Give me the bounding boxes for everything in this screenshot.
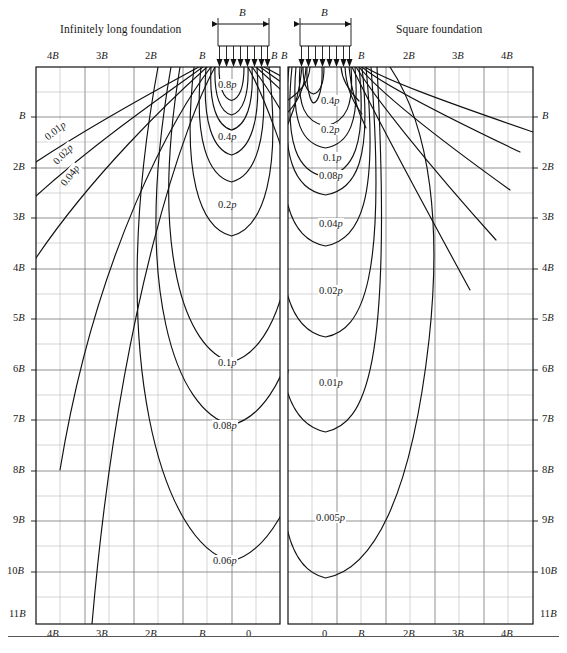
top-tick-left-3B: 3B: [96, 50, 108, 61]
top-tick-left-B: B: [199, 50, 205, 61]
left-load-diagram: [217, 18, 271, 67]
bottom-tick-right-3B: 3B: [452, 628, 464, 639]
depth-tick-right-4B: 4B: [542, 262, 554, 273]
depth-tick-left-4B: 4B: [13, 262, 25, 273]
right-panel-grid: [288, 67, 533, 624]
right-dimension-label-B: B: [321, 6, 328, 18]
depth-tick-left-7B: 7B: [13, 413, 25, 424]
bottom-tick-left-0: 0: [246, 628, 251, 639]
left-contour-label-0.06p: 0.06p: [212, 555, 238, 566]
right-contour-label-0.04p: 0.04p: [318, 218, 344, 229]
right-isobar-contours: [279, 67, 533, 578]
caption-divider: [8, 636, 559, 637]
right-contour-label-0.08p: 0.08p: [318, 170, 344, 181]
depth-tick-right-3B: 3B: [542, 211, 554, 222]
figure-caption: [8, 641, 560, 653]
bottom-tick-left-4B: 4B: [47, 628, 59, 639]
right-contour-label-0.2p: 0.2p: [320, 124, 340, 135]
depth-tick-left-8B: 8B: [13, 464, 25, 475]
bottom-tick-right-2B: 2B: [403, 628, 415, 639]
depth-tick-left-3B: 3B: [13, 211, 25, 222]
bottom-tick-right-4B: 4B: [501, 628, 513, 639]
top-tick-right-3B: 3B: [452, 50, 464, 61]
right-contour-label-0.4p: 0.4p: [320, 95, 340, 106]
bottom-tick-left-B: B: [199, 628, 205, 639]
right-contour-label-0.02p: 0.02p: [318, 285, 344, 296]
depth-tick-right-6B: 6B: [542, 363, 554, 374]
left-dimension-label-B: B: [239, 6, 246, 18]
top-tick-right-edge-B: B: [281, 50, 287, 61]
depth-tick-right-11B: 11B: [540, 608, 557, 619]
bottom-tick-right-B: B: [358, 628, 364, 639]
bottom-tick-left-2B: 2B: [145, 628, 157, 639]
depth-tick-left-2B: 2B: [13, 161, 25, 172]
top-tick-right-B: B: [358, 50, 364, 61]
top-tick-left-edge-B: B: [271, 50, 277, 61]
axis-ticks: [31, 117, 538, 572]
top-tick-left-2B: 2B: [145, 50, 157, 61]
top-tick-left-4B: 4B: [47, 50, 59, 61]
left-contour-label-0.08p: 0.08p: [212, 420, 238, 431]
depth-tick-left-1B: B: [19, 110, 25, 121]
right-contour-label-0.005p: 0.005p: [315, 512, 346, 523]
depth-tick-right-7B: 7B: [542, 413, 554, 424]
depth-tick-left-11B: 11B: [9, 608, 26, 619]
left-contour-label-0.8p: 0.8p: [217, 79, 237, 90]
left-contour-label-0.2p: 0.2p: [217, 199, 237, 210]
bottom-tick-left-3B: 3B: [96, 628, 108, 639]
right-load-diagram: [299, 18, 353, 67]
right-panel-title: Square foundation: [396, 23, 482, 35]
depth-tick-right-9B: 9B: [542, 514, 554, 525]
right-contour-label-0.01p: 0.01p: [318, 377, 344, 388]
depth-tick-right-8B: 8B: [542, 464, 554, 475]
bottom-tick-right-0: 0: [322, 628, 327, 639]
left-isobar-contours: [36, 67, 427, 624]
depth-tick-left-9B: 9B: [13, 514, 25, 525]
depth-tick-right-10B: 10B: [540, 565, 557, 576]
top-tick-right-4B: 4B: [501, 50, 513, 61]
depth-tick-right-1B: B: [542, 110, 548, 121]
depth-tick-left-6B: 6B: [13, 363, 25, 374]
left-contour-label-0.4p: 0.4p: [217, 131, 237, 142]
depth-tick-left-10B: 10B: [7, 565, 24, 576]
figure-canvas: [0, 0, 567, 653]
pressure-bulb-figure: Infinitely long foundation Square founda…: [0, 0, 567, 653]
depth-tick-right-5B: 5B: [542, 312, 554, 323]
left-contour-label-0.1p: 0.1p: [217, 357, 237, 368]
top-tick-right-2B: 2B: [403, 50, 415, 61]
depth-tick-left-5B: 5B: [13, 312, 25, 323]
left-panel-title: Infinitely long foundation: [60, 23, 181, 35]
right-contour-label-0.1p: 0.1p: [322, 152, 342, 163]
depth-tick-right-2B: 2B: [542, 161, 554, 172]
